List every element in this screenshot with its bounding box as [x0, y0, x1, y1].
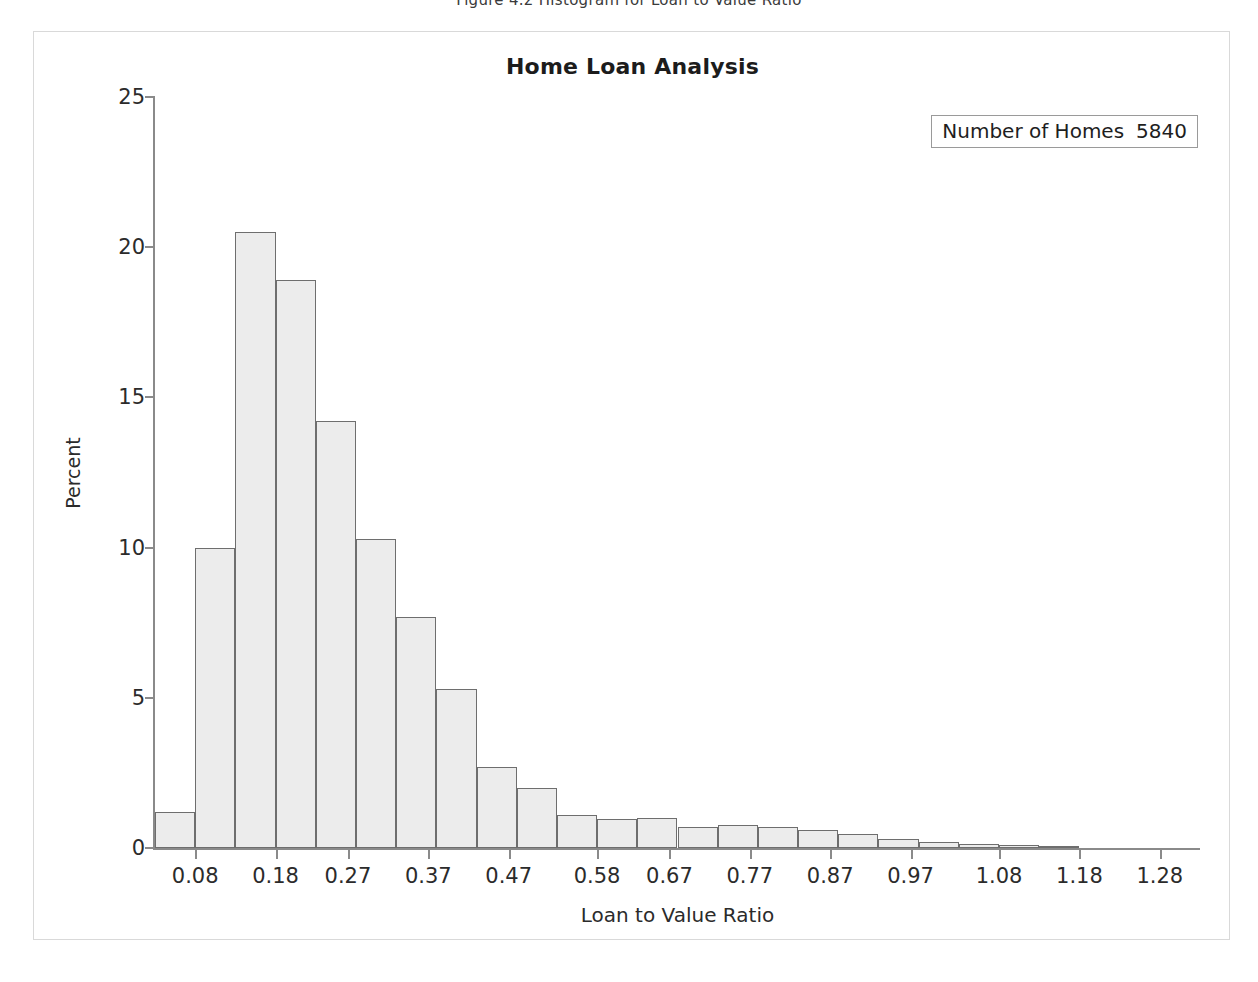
x-axis-title: Loan to Value Ratio	[581, 903, 774, 927]
x-axis-tick	[750, 848, 752, 859]
y-axis-tick-label: 5	[132, 686, 145, 710]
x-axis-tick	[509, 848, 511, 859]
histogram-bar	[718, 825, 758, 848]
y-axis-tick-label: 10	[118, 536, 145, 560]
x-axis-tick-label: 0.47	[485, 864, 532, 888]
y-axis-tick	[145, 96, 155, 98]
x-axis-tick	[830, 848, 832, 859]
histogram-bar	[637, 818, 677, 848]
histogram-bar	[758, 827, 798, 848]
x-axis-tick-label: 1.18	[1056, 864, 1103, 888]
histogram-bar	[436, 689, 476, 848]
x-axis-tick	[276, 848, 278, 859]
histogram-bar	[517, 788, 557, 848]
x-axis-tick	[911, 848, 913, 859]
x-axis-tick	[1160, 848, 1162, 859]
histogram-bar	[1039, 846, 1079, 848]
histogram-bar	[195, 548, 235, 848]
figure-caption: Figure 4.2 Histogram for Loan to Value R…	[0, 0, 1258, 9]
y-axis-tick	[145, 697, 155, 699]
x-axis-tick	[1079, 848, 1081, 859]
x-axis-tick-label: 0.37	[405, 864, 452, 888]
histogram-bar	[999, 845, 1039, 848]
x-axis-tick	[669, 848, 671, 859]
y-axis-tick	[145, 847, 155, 849]
histogram-bar	[597, 819, 637, 848]
y-axis-tick-label: 25	[118, 85, 145, 109]
histogram-bar	[678, 827, 718, 848]
histogram-bar	[557, 815, 597, 848]
histogram-bar	[838, 834, 878, 848]
x-axis-tick-label: 0.08	[172, 864, 219, 888]
x-axis-tick-label: 0.18	[252, 864, 299, 888]
x-axis-tick	[428, 848, 430, 859]
histogram-bar	[235, 232, 275, 848]
histogram-bar	[276, 280, 316, 848]
y-axis-title: Percent	[62, 437, 84, 509]
histogram-bar	[316, 421, 356, 848]
x-axis-tick-label: 0.27	[325, 864, 372, 888]
x-axis-tick	[195, 848, 197, 859]
y-axis-tick-label: 0	[132, 836, 145, 860]
histogram-bar	[356, 539, 396, 848]
histogram-bar	[959, 844, 999, 849]
y-axis-tick	[145, 396, 155, 398]
histogram-bar	[878, 839, 918, 848]
histogram-bar	[155, 812, 195, 848]
y-axis-tick-label: 15	[118, 385, 145, 409]
x-axis-tick-label: 1.28	[1136, 864, 1183, 888]
x-axis-tick	[999, 848, 1001, 859]
plot-area: Percent 0510152025 0.080.180.270.370.470…	[153, 97, 1200, 850]
y-axis-tick	[145, 547, 155, 549]
histogram-bar	[919, 842, 959, 848]
x-axis-tick-label: 0.87	[807, 864, 854, 888]
legend-box: Number of Homes5840	[931, 115, 1198, 148]
x-axis-tick-label: 0.77	[726, 864, 773, 888]
x-axis-tick-label: 1.08	[976, 864, 1023, 888]
histogram-bar	[396, 617, 436, 848]
x-axis-tick-label: 0.97	[887, 864, 934, 888]
x-axis-tick	[348, 848, 350, 859]
histogram-bars	[155, 97, 1200, 848]
histogram-bar	[477, 767, 517, 848]
legend-value: 5840	[1136, 119, 1187, 143]
chart-title: Home Loan Analysis	[34, 54, 1231, 79]
x-axis-tick-label: 0.67	[646, 864, 693, 888]
chart-frame: Home Loan Analysis Percent 0510152025 0.…	[33, 31, 1230, 940]
y-axis-tick	[145, 246, 155, 248]
y-axis-tick-label: 20	[118, 235, 145, 259]
x-axis-tick-label: 0.58	[574, 864, 621, 888]
histogram-bar	[798, 830, 838, 848]
x-axis-tick	[597, 848, 599, 859]
legend-label: Number of Homes	[942, 119, 1124, 143]
